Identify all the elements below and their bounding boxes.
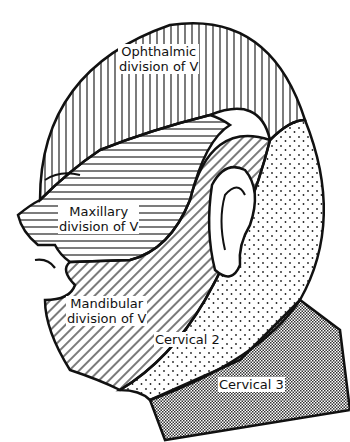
label-mandibular: Mandibular division of V <box>66 296 147 326</box>
dermatome-diagram: Ophthalmic division of V Maxillary divis… <box>0 0 350 442</box>
label-ophthalmic: Ophthalmic division of V <box>118 44 199 74</box>
label-cervical2: Cervical 2 <box>154 332 221 347</box>
nostril-line <box>35 260 55 268</box>
label-cervical3: Cervical 3 <box>218 377 285 392</box>
label-maxillary: Maxillary division of V <box>58 204 139 234</box>
